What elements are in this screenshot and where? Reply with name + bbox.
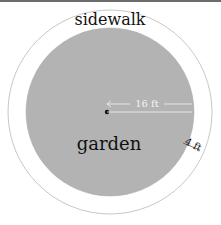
garden-label: garden <box>77 133 142 154</box>
sidewalk-label: sidewalk <box>74 10 145 29</box>
radius-label: 16 ft <box>135 98 159 109</box>
garden-sidewalk-diagram: sidewalk 16 ft garden 4 ft <box>0 0 221 225</box>
